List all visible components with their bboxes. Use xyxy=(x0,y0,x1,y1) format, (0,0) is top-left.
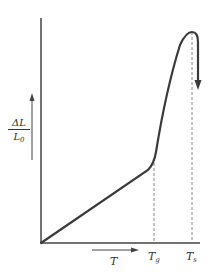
curve-arrow-icon xyxy=(195,80,202,90)
tg-sub: g xyxy=(155,256,159,264)
x-arrow-icon xyxy=(131,248,139,253)
y-axis-label: ΔL L0 xyxy=(8,117,30,144)
expansion-curve xyxy=(41,32,198,243)
y-arrow-icon xyxy=(30,93,35,101)
den-sub: 0 xyxy=(20,136,24,144)
tg-label: Tg xyxy=(148,251,160,264)
ts-sub: s xyxy=(193,256,197,264)
y-label-numerator: ΔL xyxy=(8,117,30,130)
y-label-denominator: L0 xyxy=(8,130,30,144)
expansion-diagram xyxy=(0,0,210,274)
ts-label: Ts xyxy=(186,251,197,264)
x-axis-label: T xyxy=(110,256,117,267)
